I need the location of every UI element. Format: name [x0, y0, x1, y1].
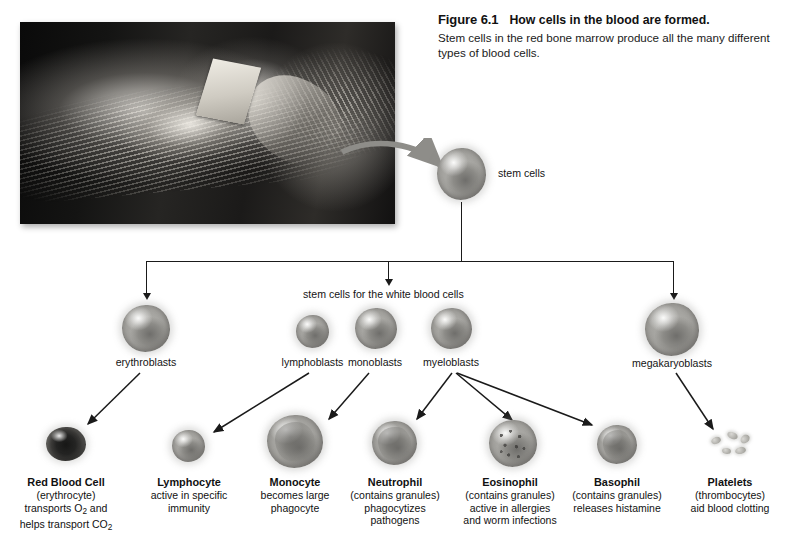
- neutrophil-desc-line2: phagocytizes: [333, 502, 457, 515]
- platelet-fragment: [710, 436, 722, 446]
- basophil-desc-line1: (contains granules): [555, 489, 679, 502]
- platelets-image: [709, 428, 755, 464]
- term-neutrophil: Neutrophil (contains granules) phagocyti…: [333, 476, 457, 527]
- eosinophil-blob: [489, 420, 537, 467]
- figure-root: Figure 6.1How cells in the blood are for…: [0, 0, 790, 545]
- lymphocyte-blob: [172, 430, 205, 462]
- term-name-neutrophil: Neutrophil: [333, 476, 457, 489]
- term-name-platelets: Platelets: [668, 476, 790, 489]
- rbc-blob: [46, 427, 86, 461]
- rbc-desc-line1: (erythrocyte): [4, 489, 128, 502]
- platelet-fragment: [722, 447, 732, 454]
- term-name-eosinophil: Eosinophil: [448, 476, 572, 489]
- eosinophil-desc-line1: (contains granules): [448, 489, 572, 502]
- arrow-erythroblast-to-rbc: [88, 373, 140, 424]
- basophil-blob: [597, 425, 637, 464]
- arrow-monoblast-to-monocyte: [329, 373, 369, 419]
- platelets-desc-line2: aid blood clotting: [668, 502, 790, 515]
- platelet-fragment: [734, 446, 746, 455]
- arrow-myeloblast-to-neutrophil: [417, 373, 452, 419]
- platelets-desc-line1: (thrombocytes): [668, 489, 790, 502]
- rbc-desc-line2: transports O2 and: [4, 502, 128, 518]
- neutrophil-desc-line3: pathogens: [333, 514, 457, 527]
- term-platelets: Platelets (thrombocytes) aid blood clott…: [668, 476, 790, 514]
- term-name-red-blood-cell: Red Blood Cell: [4, 476, 128, 489]
- term-desc-neutrophil: (contains granules) phagocytizes pathoge…: [333, 489, 457, 527]
- neutrophil-blob: [372, 421, 417, 465]
- arrow-myeloblast-to-basophil: [457, 373, 592, 425]
- rbc-desc-line3: helps transport CO2: [4, 518, 128, 534]
- platelet-fragment: [739, 433, 752, 446]
- eosinophil-desc-line3: and worm infections: [448, 514, 572, 527]
- arrow-myeloblast-to-eosinophil: [456, 373, 512, 420]
- term-desc-basophil: (contains granules) releases histamine: [555, 489, 679, 514]
- lymphocyte-image: [172, 430, 205, 462]
- basophil-image: [597, 425, 637, 464]
- arrow-megakaryoblast-to-platelets: [676, 373, 713, 429]
- term-desc-red-blood-cell: (erythrocyte) transports O2 and helps tr…: [4, 489, 128, 534]
- term-basophil: Basophil (contains granules) releases hi…: [555, 476, 679, 514]
- neutrophil-image: [372, 421, 417, 465]
- monocyte-image: [267, 415, 323, 468]
- eosinophil-image: [489, 420, 537, 467]
- term-desc-eosinophil: (contains granules) active in allergies …: [448, 489, 572, 527]
- basophil-desc-line2: releases histamine: [555, 502, 679, 515]
- neutrophil-desc-line1: (contains granules): [333, 489, 457, 502]
- eosinophil-desc-line2: active in allergies: [448, 502, 572, 515]
- term-eosinophil: Eosinophil (contains granules) active in…: [448, 476, 572, 527]
- term-red-blood-cell: Red Blood Cell (erythrocyte) transports …: [4, 476, 128, 534]
- term-name-basophil: Basophil: [555, 476, 679, 489]
- red-blood-cell-image: [46, 427, 86, 461]
- platelet-fragment: [726, 430, 739, 441]
- monocyte-blob: [267, 415, 323, 468]
- term-desc-platelets: (thrombocytes) aid blood clotting: [668, 489, 790, 514]
